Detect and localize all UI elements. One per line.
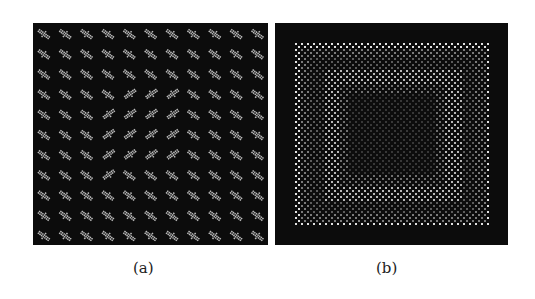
figure-panel-a [33, 23, 268, 245]
concentric-square-texture-image [275, 23, 508, 245]
caption-a: (a) [133, 259, 154, 277]
oriented-blob-texture-image [33, 23, 268, 245]
figure-panel-b [275, 23, 508, 245]
caption-b: (b) [376, 259, 397, 277]
